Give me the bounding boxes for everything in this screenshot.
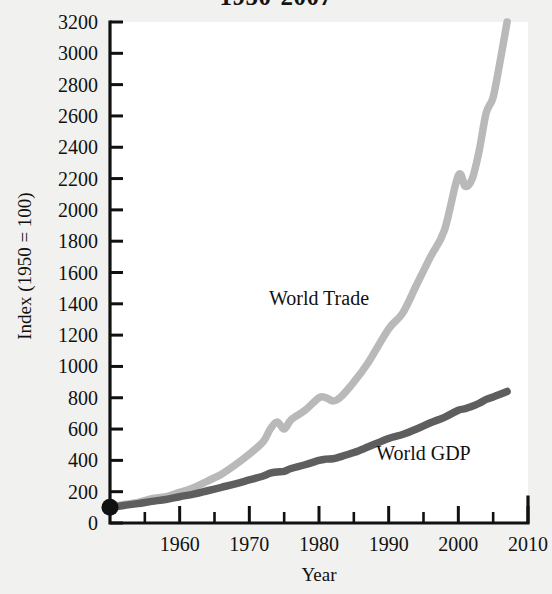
y-tick-label: 1200 [58,324,98,346]
x-axis-tick-labels: 196019701980199020002010 [160,533,548,555]
y-tick-label: 1800 [58,230,98,252]
y-tick-label: 200 [68,481,98,503]
x-tick-label: 2000 [438,533,478,555]
y-tick-label: 3200 [58,11,98,33]
y-tick-label: 2200 [58,168,98,190]
y-tick-label: 1400 [58,293,98,315]
origin-dot-marker [102,499,119,516]
y-axis-tick-labels: 0200400600800100012001400160018002000220… [58,11,98,534]
y-tick-label: 800 [68,387,98,409]
y-tick-label: 2400 [58,136,98,158]
y-tick-label: 2000 [58,199,98,221]
x-tick-label: 1980 [299,533,339,555]
y-tick-label: 1000 [58,355,98,377]
x-tick-label: 1970 [229,533,269,555]
y-tick-label: 1600 [58,262,98,284]
x-tick-label: 1960 [160,533,200,555]
y-tick-label: 2800 [58,74,98,96]
y-tick-label: 400 [68,449,98,471]
y-tick-label: 600 [68,418,98,440]
series-label: World GDP [376,442,471,464]
y-tick-label: 3000 [58,42,98,64]
plot-area: 0200400600800100012001400160018002000220… [0,0,552,594]
chart-figure: 1950-2007 Index (1950 = 100) Year 020040… [0,0,552,594]
series-label: World Trade [269,287,369,309]
y-tick-label: 0 [88,512,98,534]
y-tick-label: 2600 [58,105,98,127]
x-tick-label: 2010 [508,533,548,555]
x-tick-label: 1990 [369,533,409,555]
